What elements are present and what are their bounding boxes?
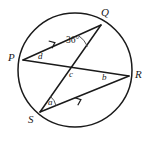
chord-pr xyxy=(23,60,129,76)
geometry-figure: P Q R S 36° d c b a xyxy=(0,0,151,141)
vertex-label-r: R xyxy=(135,69,142,80)
angle-label-d: d xyxy=(38,52,43,61)
circle-outline xyxy=(18,13,132,127)
vertex-label-s: S xyxy=(28,114,34,125)
figure-canvas xyxy=(0,0,151,141)
angle-label-c: c xyxy=(69,70,73,79)
vertex-label-q: Q xyxy=(101,7,109,18)
parallel-marker-pq xyxy=(49,39,57,48)
angle-label-b: b xyxy=(102,73,107,82)
angle-label-36deg: 36° xyxy=(66,36,79,46)
angle-label-a: a xyxy=(48,98,53,107)
angle-arc-q xyxy=(79,36,88,47)
vertex-label-p: P xyxy=(8,52,15,63)
